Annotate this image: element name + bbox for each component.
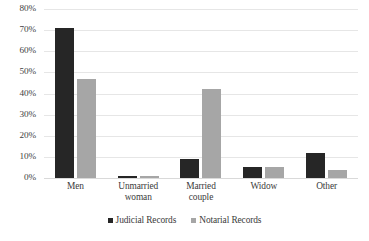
bar-group bbox=[232, 9, 295, 178]
y-axis-tick-label: 10% bbox=[0, 152, 36, 161]
axis-baseline bbox=[44, 178, 358, 179]
bar-group bbox=[44, 9, 107, 178]
legend-item[interactable]: Notarial Records bbox=[191, 215, 261, 225]
bar-group-bars bbox=[295, 9, 358, 178]
bar[interactable] bbox=[265, 167, 284, 178]
bar-group-bars bbox=[44, 9, 107, 178]
legend: Judicial RecordsNotarial Records bbox=[0, 215, 369, 225]
bar-group-bars bbox=[170, 9, 233, 178]
y-axis-tick-label: 70% bbox=[0, 26, 36, 35]
y-axis-tick-label: 50% bbox=[0, 68, 36, 77]
y-axis-tick-label: 40% bbox=[0, 89, 36, 98]
legend-swatch-icon bbox=[191, 218, 196, 223]
bar-chart: 0%10%20%30%40%50%60%70%80% MenUnmarried … bbox=[0, 0, 369, 241]
y-axis-tick-label: 80% bbox=[0, 4, 36, 13]
bar-group bbox=[107, 9, 170, 178]
bar[interactable] bbox=[77, 79, 96, 178]
bar[interactable] bbox=[140, 176, 159, 178]
x-axis-tick-label: Other bbox=[295, 181, 358, 213]
bar[interactable] bbox=[55, 28, 74, 178]
bar[interactable] bbox=[243, 167, 262, 178]
legend-label: Judicial Records bbox=[116, 215, 177, 225]
x-axis-tick-label: Married couple bbox=[170, 181, 233, 213]
bar-group bbox=[170, 9, 233, 178]
bar-groups bbox=[44, 9, 358, 178]
y-axis-tick-label: 60% bbox=[0, 47, 36, 56]
bar[interactable] bbox=[202, 89, 221, 178]
y-axis: 0%10%20%30%40%50%60%70%80% bbox=[0, 9, 40, 178]
legend-item[interactable]: Judicial Records bbox=[108, 215, 177, 225]
y-axis-tick-label: 20% bbox=[0, 131, 36, 140]
plot-area bbox=[44, 9, 358, 178]
x-axis-tick-label: Men bbox=[44, 181, 107, 213]
bar[interactable] bbox=[328, 170, 347, 178]
legend-swatch-icon bbox=[108, 218, 113, 223]
y-axis-tick-label: 30% bbox=[0, 110, 36, 119]
x-axis: MenUnmarried womanMarried coupleWidowOth… bbox=[44, 181, 358, 213]
bar[interactable] bbox=[306, 153, 325, 178]
bar-group-bars bbox=[107, 9, 170, 178]
bar-group bbox=[295, 9, 358, 178]
x-axis-tick-label: Unmarried woman bbox=[107, 181, 170, 213]
x-axis-tick-label: Widow bbox=[232, 181, 295, 213]
bar-group-bars bbox=[232, 9, 295, 178]
legend-label: Notarial Records bbox=[199, 215, 261, 225]
bar[interactable] bbox=[180, 159, 199, 178]
y-axis-tick-label: 0% bbox=[0, 173, 36, 182]
bar[interactable] bbox=[118, 176, 137, 178]
